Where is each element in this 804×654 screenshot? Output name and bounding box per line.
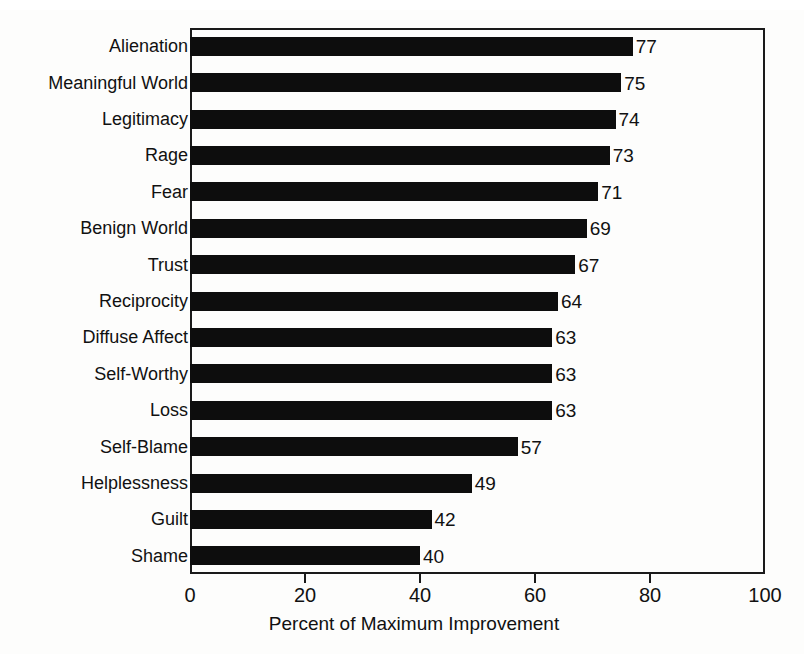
category-label: Self-Blame [0,438,188,456]
bar [190,146,610,165]
x-axis-tick [534,574,536,583]
x-axis-tick-label: 60 [524,585,546,605]
category-label: Diffuse Affect [0,328,188,346]
x-axis-tick-label: 20 [294,585,316,605]
bar-value-label: 67 [575,255,599,274]
bar-value-label: 63 [552,328,576,347]
x-axis-tick-label: 40 [409,585,431,605]
bar-chart-figure: 777574737169676463636357494240 Alienatio… [0,0,804,654]
bar-value-label: 40 [420,546,444,565]
x-axis-tick-label: 80 [639,585,661,605]
category-label: Fear [0,183,188,201]
x-axis-tick [304,574,306,583]
category-label: Rage [0,146,188,164]
bar [190,182,598,201]
bar-value-label: 75 [621,73,645,92]
bar [190,437,518,456]
bar [190,328,552,347]
bar-value-label: 49 [472,474,496,493]
category-label: Alienation [0,37,188,55]
bar-value-label: 71 [598,182,622,201]
category-label: Benign World [0,219,188,237]
category-label: Loss [0,401,188,419]
category-label: Shame [0,547,188,565]
category-label: Guilt [0,510,188,528]
category-label: Reciprocity [0,292,188,310]
bar [190,110,616,129]
category-label: Self-Worthy [0,365,188,383]
category-label: Meaningful World [0,74,188,92]
x-axis-title-text: Percent of Maximum Improvement [245,614,559,633]
x-axis-tick [419,574,421,583]
bar [190,292,558,311]
bar [190,546,420,565]
bar-value-label: 64 [558,292,582,311]
bar-value-label: 42 [432,510,456,529]
bar-value-label: 73 [610,146,634,165]
bar [190,219,587,238]
bar-value-label: 63 [552,364,576,383]
bar-value-label: 74 [616,110,640,129]
bar-value-label: 57 [518,437,542,456]
x-axis-tick-label: 100 [748,585,781,605]
bar [190,401,552,420]
x-axis-tick [649,574,651,583]
category-label: Trust [0,256,188,274]
scan-noise-strip [0,0,804,10]
bar [190,255,575,274]
bar [190,474,472,493]
bar-value-label: 63 [552,401,576,420]
bar [190,510,432,529]
category-label: Legitimacy [0,110,188,128]
bar-value-label: 69 [587,219,611,238]
category-label: Helplessness [0,474,188,492]
bar [190,73,621,92]
x-axis-title: Percent of Maximum Improvement [0,614,804,633]
bar [190,364,552,383]
x-axis-tick-label: 0 [184,585,195,605]
bar [190,37,633,56]
bar-value-label: 77 [633,37,657,56]
